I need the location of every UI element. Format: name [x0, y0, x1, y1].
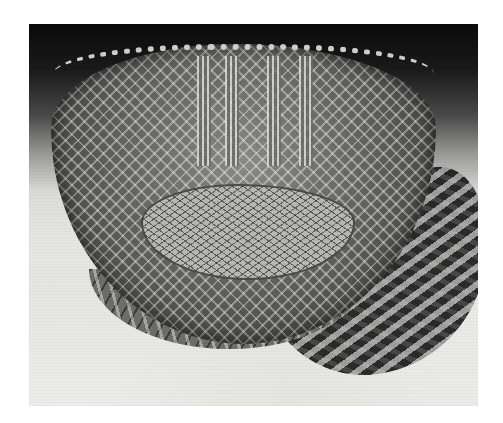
photograph [29, 24, 478, 406]
scalloped-rim [53, 44, 434, 104]
